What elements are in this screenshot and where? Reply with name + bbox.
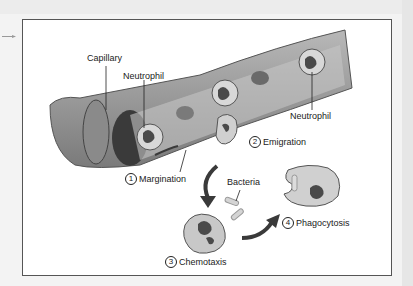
step-number: 2	[249, 136, 261, 148]
step-label: Phagocytosis	[296, 218, 350, 228]
step-phagocytosis: 4 Phagocytosis	[282, 217, 350, 229]
step-label: Chemotaxis	[179, 257, 227, 267]
phagocytosis-cell	[284, 165, 340, 206]
chemotaxis-cell	[184, 214, 226, 253]
capillary-label: Capillary	[87, 53, 122, 63]
diagram-illustration	[0, 0, 413, 286]
step-label: Emigration	[263, 137, 306, 147]
step-margination: 1 Margination	[125, 173, 186, 185]
neutrophil-label-right: Neutrophil	[290, 111, 331, 121]
step-number: 3	[165, 256, 177, 268]
step-chemotaxis: 3 Chemotaxis	[165, 256, 227, 268]
step-number: 1	[125, 173, 137, 185]
neutrophil-label-left: Neutrophil	[123, 71, 164, 81]
step-number: 4	[282, 217, 294, 229]
step-label: Margination	[139, 174, 186, 184]
bacteria-label: Bacteria	[227, 177, 260, 187]
bacteria	[224, 197, 244, 221]
step-emigration: 2 Emigration	[249, 136, 306, 148]
